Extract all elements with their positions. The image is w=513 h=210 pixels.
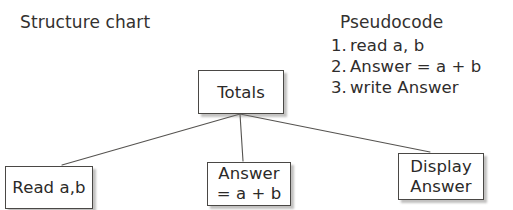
- node-answer-label: Answer: [218, 164, 279, 184]
- pseudocode-step-text: write Answer: [350, 78, 459, 97]
- node-answer[interactable]: Answer = a + b: [207, 162, 291, 206]
- structure-chart-heading: Structure chart: [20, 12, 150, 32]
- connector-totals-to-answer: [240, 114, 243, 161]
- node-read[interactable]: Read a,b: [5, 166, 93, 209]
- node-display-target: Answer: [410, 177, 471, 197]
- node-answer-expression: = a + b: [217, 184, 282, 204]
- pseudocode-step-text: Answer = a + b: [350, 57, 481, 76]
- pseudocode-step-number: 3.: [331, 78, 347, 97]
- node-totals[interactable]: Totals: [198, 70, 284, 114]
- pseudocode-step-number: 2.: [331, 57, 347, 76]
- pseudocode-step: 3.write Answer: [331, 77, 481, 98]
- pseudocode-step-text: read a, b: [350, 36, 424, 55]
- pseudocode-step: 1.read a, b: [331, 35, 481, 56]
- pseudocode-list: 1.read a, b 2.Answer = a + b 3.write Ans…: [331, 35, 481, 98]
- node-read-label: Read a,b: [12, 178, 85, 197]
- connector-totals-to-display: [240, 114, 430, 152]
- node-totals-label: Totals: [217, 83, 265, 102]
- node-display-label: Display: [410, 157, 472, 177]
- pseudocode-step-number: 1.: [331, 36, 347, 55]
- pseudocode-heading: Pseudocode: [340, 12, 443, 32]
- connector-totals-to-read: [62, 114, 240, 165]
- pseudocode-step: 2.Answer = a + b: [331, 56, 481, 77]
- structure-chart-diagram: Structure chart Pseudocode 1.read a, b 2…: [0, 0, 513, 210]
- node-display[interactable]: Display Answer: [398, 153, 484, 200]
